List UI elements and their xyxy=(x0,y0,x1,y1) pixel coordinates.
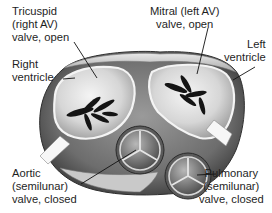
label-mitral-valve: Mitral (left AV) valve, open xyxy=(150,5,219,31)
aortic-valve xyxy=(116,126,164,174)
label-tricuspid-valve: Tricuspid (right AV) valve, open xyxy=(12,5,69,44)
label-right-ventricle: Right ventricle xyxy=(12,58,54,84)
label-pulmonary-valve: Pulmonary (semilunar) valve, closed xyxy=(199,167,264,206)
label-left-ventricle: Left ventricle xyxy=(224,38,266,64)
label-aortic-valve: Aortic (semilunar) valve, closed xyxy=(12,167,77,206)
